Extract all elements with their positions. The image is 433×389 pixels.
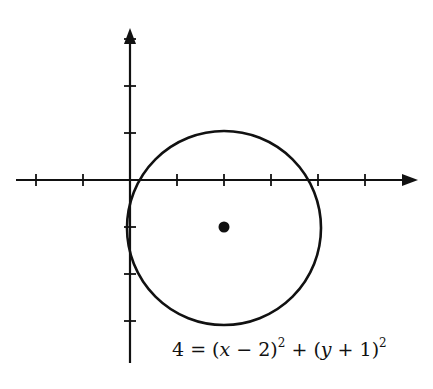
y-axis — [124, 28, 136, 363]
equation-lhs: 4 — [172, 338, 184, 360]
coordinate-plane — [0, 0, 433, 389]
y-axis-arrow-icon — [124, 28, 136, 44]
center-point — [219, 222, 230, 233]
equation-var-x: x — [220, 338, 231, 360]
equation-term1-exponent: 2 — [278, 336, 286, 350]
equation-term1-open: ( — [212, 338, 219, 360]
center-dot — [219, 222, 230, 233]
equation-var-y: y — [321, 338, 332, 360]
equation-term2-rest: + 1) — [332, 338, 380, 360]
equation-term2-open: ( — [313, 338, 320, 360]
equation-plus: + — [285, 338, 313, 360]
circle-equation: 4 = (x − 2)2 + (y + 1)2 — [172, 338, 387, 360]
equation-term2-exponent: 2 — [379, 336, 387, 350]
x-axis — [16, 174, 418, 186]
x-axis-arrow-icon — [402, 174, 418, 186]
equation-term1-rest: − 2) — [230, 338, 278, 360]
equation-equals: = — [190, 338, 206, 360]
